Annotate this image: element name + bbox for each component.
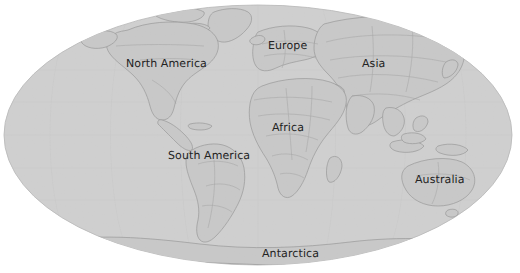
label-europe: Europe xyxy=(268,40,307,52)
label-asia: Asia xyxy=(362,58,385,70)
label-antarctica: Antarctica xyxy=(262,248,319,260)
label-africa: Africa xyxy=(272,122,304,134)
label-australia: Australia xyxy=(415,174,465,186)
landmasses xyxy=(0,0,520,273)
new-zealand-shape xyxy=(483,194,496,209)
label-north-america: North America xyxy=(126,58,207,70)
label-south-america: South America xyxy=(168,150,250,162)
world-map-graphic xyxy=(0,0,520,273)
world-map: North America Europe Asia Africa South A… xyxy=(0,0,520,273)
